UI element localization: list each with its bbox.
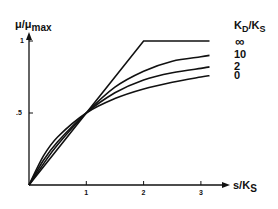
x-tick-label: 2 — [142, 189, 146, 196]
legend-item: 10 — [234, 49, 246, 60]
curve-kd-ks-10 — [29, 55, 210, 185]
y-axis-arrow-icon — [26, 32, 32, 40]
y-axis-label: μ/μmax — [15, 19, 52, 30]
curves — [29, 41, 210, 185]
curve-kd-ks-infinity — [29, 41, 210, 185]
curve-kd-ks-0 — [29, 76, 210, 185]
y-tick-label: 1 — [20, 37, 24, 44]
legend-item: 0 — [234, 70, 240, 81]
x-axis-arrow-icon — [222, 182, 230, 188]
legend-title: KD/KS — [234, 20, 265, 31]
x-tick-label: 3 — [199, 189, 203, 196]
x-axis-label: s/KS — [233, 180, 257, 191]
legend-item: ∞ — [235, 35, 244, 48]
y-tick-label: .5 — [16, 109, 22, 116]
axes — [26, 32, 230, 188]
x-tick-label: 1 — [84, 189, 88, 196]
